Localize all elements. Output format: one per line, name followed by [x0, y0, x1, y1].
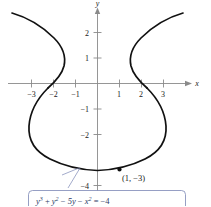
y-axis-arrowhead [95, 8, 100, 15]
x-tick-label-3: 3 [161, 90, 165, 99]
x-tick-label-1: 1 [117, 90, 121, 99]
x-axis-arrowhead [185, 81, 192, 86]
equation-text: y3 + y2 − 5y − x2 = −4 [35, 196, 110, 206]
x-axis-label: x [194, 79, 199, 88]
marked-point-label: (1, −3) [122, 173, 145, 183]
eq-rhs-value: −4 [101, 196, 111, 206]
x-tick-label-neg3: −3 [27, 90, 36, 99]
y-tick-label-2: 2 [85, 29, 89, 38]
callout-leader-lines [62, 168, 80, 188]
x-tick-label-2: 2 [139, 90, 143, 99]
equation-callout: y3 + y2 − 5y − x2 = −4 [29, 191, 186, 207]
marked-point-dot [117, 167, 121, 171]
y-axis-label: y [95, 0, 100, 8]
graph-figure: −3 −2 −1 1 2 3 2 1 −1 −2 −4 x y (1, −3) … [0, 0, 211, 206]
y-tick-label-neg1: −1 [80, 105, 89, 114]
x-tick-label-neg2: −2 [49, 90, 58, 99]
y-tick-label-neg4: −4 [80, 182, 89, 191]
x-tick-label-neg1: −1 [71, 90, 80, 99]
tick-labels-group: −3 −2 −1 1 2 3 2 1 −1 −2 −4 [27, 29, 165, 191]
curve-upper-left-branch [12, 13, 65, 88]
y-tick-label-1: 1 [85, 54, 89, 63]
curve-upper-right-branch [130, 13, 183, 88]
leader-line-right [68, 168, 80, 188]
eq-term-5y: 5y [68, 196, 76, 206]
y-tick-label-neg2: −2 [80, 131, 89, 140]
